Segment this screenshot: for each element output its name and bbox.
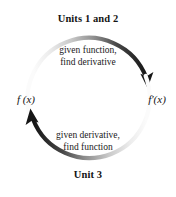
arrow-top-label-line1: given function, bbox=[0, 44, 176, 56]
arrow-top-label-line2: find derivative bbox=[0, 56, 176, 68]
caption-unit-3: Unit 3 bbox=[0, 170, 176, 181]
arrow-bottom-label: given derivative, find function bbox=[0, 129, 176, 153]
arrow-top-label: given function, find derivative bbox=[0, 44, 176, 68]
arrow-bottom-label-line1: given derivative, bbox=[0, 129, 176, 141]
arrow-bottom-label-line2: find function bbox=[0, 141, 176, 153]
node-label-f-prime-x: f′(x) bbox=[138, 94, 176, 105]
cycle-diagram: Units 1 and 2 given function, find deriv… bbox=[0, 0, 176, 197]
node-label-fx: f (x) bbox=[8, 94, 44, 105]
caption-units-1-and-2: Units 1 and 2 bbox=[0, 14, 176, 25]
